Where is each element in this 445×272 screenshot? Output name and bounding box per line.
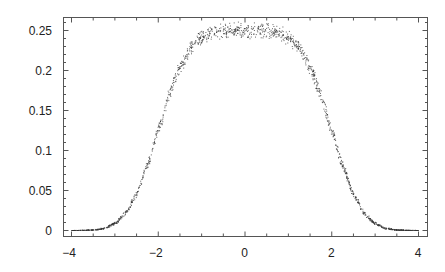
data-point <box>248 30 249 31</box>
data-point <box>303 55 304 56</box>
data-point <box>214 35 215 36</box>
data-point <box>230 26 231 27</box>
data-point <box>331 134 332 135</box>
data-point <box>398 230 399 231</box>
data-point <box>303 54 304 55</box>
data-point <box>145 168 146 169</box>
data-point <box>136 193 137 194</box>
data-point <box>228 31 229 32</box>
data-point <box>166 103 167 104</box>
data-point <box>243 30 244 31</box>
data-point <box>251 28 252 29</box>
data-point <box>193 44 194 45</box>
data-point <box>298 48 299 49</box>
data-point <box>275 30 276 31</box>
data-point <box>199 33 200 34</box>
data-point <box>218 30 219 31</box>
data-point <box>279 28 280 29</box>
data-point <box>364 212 365 213</box>
data-point <box>327 121 328 122</box>
data-point <box>225 25 226 26</box>
data-point <box>240 34 241 35</box>
data-point <box>248 37 249 38</box>
data-point <box>375 222 376 223</box>
data-point <box>159 130 160 131</box>
data-point <box>369 218 370 219</box>
data-point <box>341 164 342 165</box>
data-point <box>144 170 145 171</box>
data-point <box>205 32 206 33</box>
data-point <box>334 135 335 136</box>
data-point <box>226 36 227 37</box>
data-point <box>268 27 269 28</box>
data-point <box>358 200 359 201</box>
data-point <box>243 32 244 33</box>
data-point <box>187 59 188 60</box>
data-point <box>317 91 318 92</box>
data-point <box>380 224 381 225</box>
data-point <box>313 71 314 72</box>
data-point <box>189 50 190 51</box>
data-point <box>140 181 141 182</box>
data-point <box>157 131 158 132</box>
data-point <box>236 31 237 32</box>
data-point <box>187 51 188 52</box>
data-point <box>326 106 327 107</box>
data-point <box>143 172 144 173</box>
data-point <box>144 171 145 172</box>
data-point <box>148 167 149 168</box>
data-point <box>311 74 312 75</box>
data-point <box>206 41 207 42</box>
data-point <box>216 30 217 31</box>
data-point <box>218 31 219 32</box>
x-tick-label: 2 <box>328 246 335 260</box>
data-point <box>238 29 239 30</box>
data-point <box>301 53 302 54</box>
data-point <box>225 28 226 29</box>
data-point <box>281 41 282 42</box>
data-point <box>346 172 347 173</box>
data-point <box>134 198 135 199</box>
data-point <box>118 218 119 219</box>
data-point <box>209 35 210 36</box>
data-point <box>365 212 366 213</box>
y-tick-label: 0 <box>45 224 52 238</box>
data-point <box>134 199 135 200</box>
data-point <box>251 32 252 33</box>
data-point <box>201 31 202 32</box>
data-point <box>175 75 176 76</box>
data-point <box>223 31 224 32</box>
data-point <box>321 90 322 91</box>
data-point <box>123 216 124 217</box>
data-point <box>276 34 277 35</box>
chart: −4−2024 00.050.10.150.20.25 <box>0 0 445 272</box>
data-point <box>131 202 132 203</box>
data-point <box>322 102 323 103</box>
data-point <box>330 128 331 129</box>
data-point <box>156 134 157 135</box>
data-point <box>237 30 238 31</box>
data-point <box>257 30 258 31</box>
data-point <box>382 227 383 228</box>
data-point <box>298 44 299 45</box>
data-point <box>262 32 263 33</box>
data-point <box>314 78 315 79</box>
data-point <box>203 36 204 37</box>
data-point <box>137 191 138 192</box>
data-point <box>383 228 384 229</box>
x-tick-label: −4 <box>62 246 76 260</box>
data-point <box>114 222 115 223</box>
data-point <box>201 42 202 43</box>
data-point <box>236 27 237 28</box>
data-point <box>326 117 327 118</box>
data-point <box>258 28 259 29</box>
data-point <box>131 201 132 202</box>
data-point <box>197 37 198 38</box>
data-point <box>96 230 97 231</box>
data-point <box>283 35 284 36</box>
data-point <box>241 37 242 38</box>
data-point <box>339 153 340 154</box>
data-point <box>178 67 179 68</box>
data-point <box>128 209 129 210</box>
data-point <box>191 43 192 44</box>
